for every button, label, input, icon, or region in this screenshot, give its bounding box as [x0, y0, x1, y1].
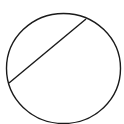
circle-shape: [7, 14, 121, 124]
chord-line: [9, 19, 86, 83]
diagram-canvas: [0, 0, 124, 124]
